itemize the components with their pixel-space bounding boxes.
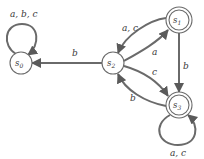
state-s0: s0: [10, 52, 32, 74]
edge-s3-s3: [159, 115, 195, 145]
edge-label-s1-s3: b: [183, 61, 189, 71]
edge-label-s3-s3: a, c: [170, 148, 186, 158]
edge-label-s1-s2: a: [152, 47, 157, 57]
state-diagram: a, b, c b a, c a c b b a, c s0 s1 s2 s3: [0, 0, 204, 159]
edge-label-s3-s2: b: [130, 93, 136, 103]
edge-s0-s0: [7, 24, 37, 55]
state-s2: s2: [102, 52, 124, 74]
edge-s3-s2: [118, 74, 166, 106]
edge-s2-s3: [124, 66, 168, 96]
state-s3: s3: [166, 92, 192, 118]
edge-label-s2-s0: b: [72, 48, 78, 58]
edge-label-s2-s3: c: [152, 67, 157, 77]
edge-label-s0-s0: a, b, c: [10, 9, 38, 19]
state-s1: s1: [166, 7, 192, 33]
edge-label-s2-s1: a, c: [122, 23, 138, 33]
